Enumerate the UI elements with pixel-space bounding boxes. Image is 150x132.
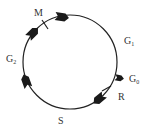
label-g0: G0 xyxy=(129,73,139,85)
label-r: R xyxy=(118,91,125,102)
g0-exit-arrow-icon xyxy=(115,74,125,81)
label-g1: G1 xyxy=(124,35,134,47)
label-m: M xyxy=(34,7,43,18)
r-checkpoint-tick xyxy=(102,86,111,91)
label-s: S xyxy=(58,115,64,126)
cell-cycle-diagram: M G1 G0 R S G2 xyxy=(0,0,150,132)
label-g2: G2 xyxy=(6,53,16,65)
